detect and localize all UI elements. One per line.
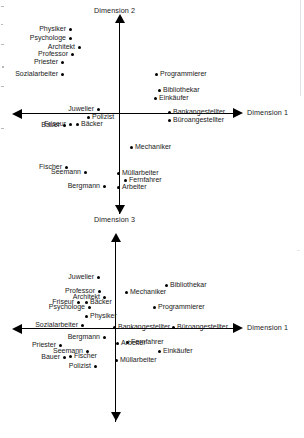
data-point xyxy=(85,315,88,318)
data-point xyxy=(76,123,79,126)
scatter-plot-dimension-2: Dimension 2 Dimension 1 PhysikerPsycholo… xyxy=(0,0,304,218)
data-point-label: Einkäufer xyxy=(163,347,193,355)
data-point-label: Priester xyxy=(34,58,58,66)
data-point xyxy=(117,186,120,189)
data-point-label: Psychologe xyxy=(30,34,66,42)
data-point-label: Bankangestellter xyxy=(118,323,170,331)
data-point xyxy=(81,324,84,327)
axis-arrow-right xyxy=(233,323,243,333)
data-point xyxy=(117,172,120,175)
data-point-label: Müllarbeiter xyxy=(120,356,157,364)
axis-label-dimension-1: Dimension 1 xyxy=(247,323,288,332)
axis-label-dimension-1: Dimension 1 xyxy=(247,108,288,117)
axis-arrow-down xyxy=(115,205,125,214)
data-point-label: Psychologe xyxy=(49,303,85,311)
data-point-label: Polizist xyxy=(69,362,91,370)
data-point xyxy=(84,171,87,174)
data-point xyxy=(158,350,161,353)
data-point-label: Arbeiter xyxy=(121,339,146,347)
data-point xyxy=(97,276,100,279)
data-point xyxy=(153,306,156,309)
data-point-label: Juwelier xyxy=(68,105,94,113)
data-point xyxy=(103,185,106,188)
data-point xyxy=(78,46,81,49)
data-point-label: Juwelier xyxy=(68,273,94,281)
data-point-label: Bauer xyxy=(41,353,60,361)
data-point xyxy=(155,73,158,76)
scatter-plot-dimension-3: Dimension 1 JuwelierBibliothekarProfesso… xyxy=(0,218,304,438)
data-point xyxy=(125,291,128,294)
data-point xyxy=(69,37,72,40)
figure-page: Dimension 2 Dimension 1 PhysikerPsycholo… xyxy=(0,0,304,438)
data-point-label: Büroangestellter xyxy=(177,323,228,331)
axis-arrow-up xyxy=(111,233,121,242)
data-point xyxy=(168,119,171,122)
data-point xyxy=(165,284,168,287)
data-point-label: Sozialarbeiter xyxy=(35,321,78,329)
axis-arrow-right xyxy=(233,108,243,118)
data-point-label: Physiker xyxy=(90,312,117,320)
axis-arrow-left xyxy=(12,109,22,119)
data-point-label: Einkäufer xyxy=(159,94,189,102)
axis-label-dimension-2: Dimension 2 xyxy=(94,6,135,15)
data-point xyxy=(63,356,66,359)
data-point xyxy=(168,111,171,114)
data-point-label: Mechaniker xyxy=(135,143,171,151)
data-point xyxy=(97,108,100,111)
data-point xyxy=(69,28,72,31)
data-point xyxy=(172,326,175,329)
data-point-label: Bibliothekar xyxy=(163,86,200,94)
data-point xyxy=(94,365,97,368)
data-point-label: Bergmann xyxy=(68,333,100,341)
axis-arrow-up xyxy=(115,14,125,23)
axis-arrow-left xyxy=(12,324,22,334)
data-point xyxy=(87,116,90,119)
data-point xyxy=(158,89,161,92)
data-point xyxy=(115,359,118,362)
data-point xyxy=(69,123,72,126)
data-point xyxy=(103,336,106,339)
data-point-label: Arbeiter xyxy=(122,183,147,191)
data-point-label: Bankangestellter xyxy=(173,108,225,116)
data-point xyxy=(116,342,119,345)
vertical-axis-line xyxy=(115,241,116,422)
data-point-label: Bauer xyxy=(41,121,60,129)
data-point xyxy=(124,179,127,182)
data-point xyxy=(63,124,66,127)
data-point-label: Büroangestellter xyxy=(173,116,224,124)
data-point-label: Physiker xyxy=(39,25,66,33)
data-point-label: Professor xyxy=(38,50,68,58)
data-point-label: Fischer xyxy=(74,352,97,360)
data-point-label: Bäcker xyxy=(90,298,112,306)
data-point-label: Programmierer xyxy=(158,303,205,311)
data-point-label: Mechaniker xyxy=(130,288,166,296)
data-point-label: Sozialarbeiter xyxy=(15,70,58,78)
data-point xyxy=(154,97,157,100)
data-point xyxy=(61,61,64,64)
axis-arrow-down xyxy=(111,412,121,421)
data-point-label: Programmierer xyxy=(160,70,207,78)
data-point-label: Bäcker xyxy=(81,120,103,128)
data-point-label: Seemann xyxy=(51,168,81,176)
data-point-label: Bergmann xyxy=(68,182,100,190)
data-point xyxy=(61,73,64,76)
data-point xyxy=(88,306,91,309)
data-point xyxy=(113,326,116,329)
data-point-label: Bibliothekar xyxy=(170,281,207,289)
data-point xyxy=(71,53,74,56)
data-point xyxy=(130,146,133,149)
data-point xyxy=(69,355,72,358)
